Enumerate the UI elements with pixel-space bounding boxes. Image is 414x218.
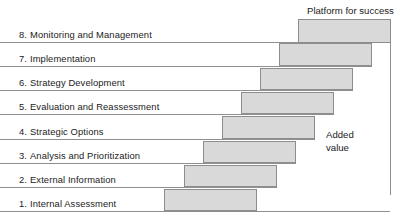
step-rule-5 bbox=[0, 114, 334, 115]
staircase-diagram: Platform for success 8.Monitoring and Ma… bbox=[0, 0, 414, 218]
step-rule-6 bbox=[0, 90, 353, 91]
step-label-1: 1.Internal Assessment bbox=[19, 198, 116, 209]
step-bar-4 bbox=[222, 116, 315, 139]
step-label-2: 2.External Information bbox=[19, 174, 116, 185]
step-bar-2 bbox=[184, 165, 277, 187]
step-label-8: 8.Monitoring and Management bbox=[19, 29, 152, 40]
added-value-line2: value bbox=[326, 142, 354, 155]
step-number-4: 4. bbox=[19, 126, 30, 137]
step-label-5: 5.Evaluation and Reassessment bbox=[19, 101, 159, 112]
step-text-6: Strategy Development bbox=[30, 77, 125, 88]
step-text-3: Analysis and Prioritization bbox=[30, 150, 140, 161]
step-label-4: 4.Strategic Options bbox=[19, 126, 104, 137]
step-bar-3 bbox=[203, 141, 296, 163]
step-text-1: Internal Assessment bbox=[30, 198, 116, 209]
step-number-7: 7. bbox=[19, 53, 30, 64]
step-bar-1 bbox=[164, 189, 257, 211]
platform-for-success-caption: Platform for success bbox=[307, 5, 394, 16]
step-rule-7 bbox=[0, 66, 372, 67]
step-number-1: 1. bbox=[19, 198, 30, 209]
step-text-2: External Information bbox=[30, 174, 116, 185]
step-bar-7 bbox=[279, 43, 372, 66]
step-text-5: Evaluation and Reassessment bbox=[30, 101, 159, 112]
step-text-4: Strategic Options bbox=[30, 126, 104, 137]
step-label-3: 3.Analysis and Prioritization bbox=[19, 150, 140, 161]
step-label-7: 7.Implementation bbox=[19, 53, 96, 64]
step-number-3: 3. bbox=[19, 150, 30, 161]
added-value-annotation: Added value bbox=[326, 129, 354, 154]
step-rule-4 bbox=[0, 139, 315, 140]
step-text-8: Monitoring and Management bbox=[30, 29, 152, 40]
step-number-8: 8. bbox=[19, 29, 30, 40]
step-rule-2 bbox=[0, 187, 277, 188]
step-rule-3 bbox=[0, 163, 296, 164]
step-number-6: 6. bbox=[19, 77, 30, 88]
step-bar-6 bbox=[260, 68, 353, 90]
step-number-2: 2. bbox=[19, 174, 30, 185]
step-label-6: 6.Strategy Development bbox=[19, 77, 125, 88]
step-bar-5 bbox=[241, 92, 334, 114]
step-bar-8 bbox=[298, 19, 391, 43]
step-number-5: 5. bbox=[19, 101, 30, 112]
added-value-line1: Added bbox=[326, 129, 354, 142]
platform-frame-right-line bbox=[390, 19, 391, 195]
step-rule-1 bbox=[0, 211, 390, 212]
step-text-7: Implementation bbox=[30, 53, 96, 64]
